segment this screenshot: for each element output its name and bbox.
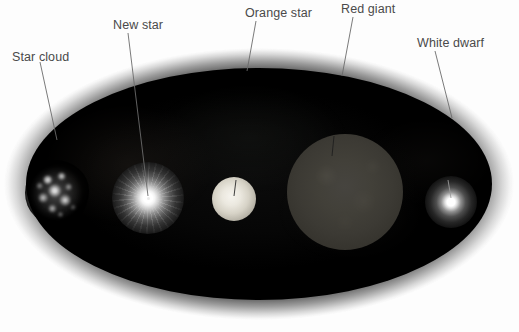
leader-white-dwarf-stub xyxy=(448,180,451,198)
leader-orange-star xyxy=(247,21,256,71)
label-new-star: New star xyxy=(113,18,163,32)
leader-orange-star-stub xyxy=(234,180,236,196)
leader-star-cloud xyxy=(40,62,57,140)
label-star-cloud: Star cloud xyxy=(12,50,69,64)
diagram-canvas: Star cloud New star Orange star Red gian… xyxy=(0,0,519,332)
label-red-giant: Red giant xyxy=(341,2,395,16)
leader-new-star xyxy=(128,33,148,196)
leader-white-dwarf xyxy=(435,51,452,118)
leader-red-giant-stub xyxy=(332,136,334,156)
leader-red-giant xyxy=(342,17,353,76)
label-white-dwarf: White dwarf xyxy=(417,36,484,50)
label-orange-star: Orange star xyxy=(245,6,312,20)
